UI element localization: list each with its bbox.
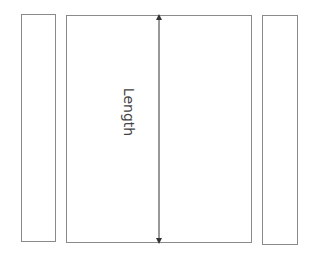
right-panel	[262, 15, 298, 245]
left-panel	[21, 14, 56, 242]
length-label: Length	[121, 88, 137, 136]
double-arrow-icon	[154, 14, 164, 244]
